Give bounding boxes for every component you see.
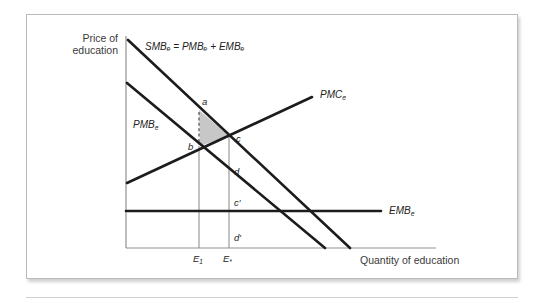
point-label-b: b <box>188 141 193 152</box>
curve-label-emb-main: EMB <box>389 205 411 216</box>
point-label-c-prime: c′ <box>234 197 241 208</box>
point-label-c: c <box>236 133 241 144</box>
curve-label-smb: SMBₑ = PMBₑ + EMBₑ <box>145 41 244 53</box>
figure-root: Price of education Quantity of education… <box>0 0 544 307</box>
curve-pmb <box>127 83 325 248</box>
curve-label-pmb-sub: e <box>155 124 159 131</box>
x-tick-e1-sub: 1 <box>199 258 203 265</box>
curve-label-pmc-main: PMC <box>320 89 342 100</box>
y-axis-title-line2: education <box>46 44 118 56</box>
x-tick-label-e1: E1 <box>193 253 203 264</box>
curve-pmc <box>127 97 312 183</box>
x-tick-estar-sub: * <box>229 258 232 265</box>
curve-label-pmb: PMBe <box>133 119 158 131</box>
curve-label-pmb-main: PMB <box>133 119 155 130</box>
deadweight-loss-triangle <box>199 110 229 146</box>
curve-label-emb-sub: e <box>411 210 415 217</box>
x-tick-label-estar: E* <box>223 253 232 264</box>
x-axis-title: Quantity of education <box>360 254 459 266</box>
y-axis-title-line1: Price of <box>46 32 118 44</box>
curve-label-emb: EMBe <box>389 205 414 217</box>
point-label-d: d <box>234 166 239 177</box>
curve-label-pmc-sub: e <box>342 94 346 101</box>
curve-label-pmc: PMCe <box>320 89 346 101</box>
y-axis-title: Price of education <box>46 32 118 57</box>
point-label-d-prime: d′ <box>234 232 241 243</box>
point-label-a: a <box>202 96 207 107</box>
